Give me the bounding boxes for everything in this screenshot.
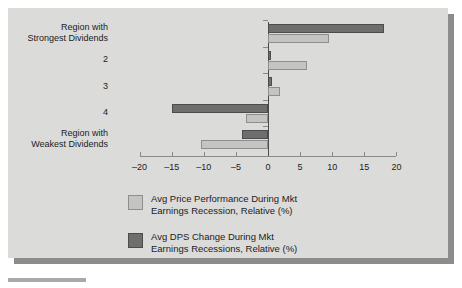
y-axis-category-label-line: 2 bbox=[12, 54, 108, 65]
x-axis-tick bbox=[300, 152, 301, 156]
x-axis-tick bbox=[172, 152, 173, 156]
bar-dark bbox=[268, 77, 272, 86]
caption-rule bbox=[8, 278, 86, 282]
y-axis-category-label-line: 3 bbox=[12, 81, 108, 92]
x-axis-tick bbox=[364, 152, 365, 156]
y-axis-category-label: Region withWeakest Dividends bbox=[12, 128, 108, 150]
x-axis-tick bbox=[140, 152, 141, 156]
bar-dark bbox=[268, 24, 384, 33]
y-axis-tick bbox=[263, 47, 268, 48]
bar-light bbox=[201, 140, 268, 149]
bar-dark bbox=[268, 51, 271, 60]
y-axis-tick bbox=[263, 73, 268, 74]
legend-swatch-dark bbox=[128, 233, 143, 248]
x-axis-tick bbox=[396, 152, 397, 156]
y-axis-tick bbox=[263, 100, 268, 101]
y-axis-category-label: 2 bbox=[12, 54, 108, 65]
x-axis-tick bbox=[332, 152, 333, 156]
legend-label-line: Avg Price Performance During Mkt bbox=[151, 193, 411, 205]
bar-light bbox=[268, 61, 307, 70]
y-axis-tick bbox=[263, 126, 268, 127]
plot-area: –20–15–10–505101520Region withStrongest … bbox=[8, 8, 448, 258]
bar-light bbox=[268, 87, 280, 96]
x-axis-tick bbox=[204, 152, 205, 156]
x-axis-tick-label: 20 bbox=[376, 162, 416, 172]
y-axis-category-label: 4 bbox=[12, 107, 108, 118]
legend-label: Avg Price Performance During MktEarnings… bbox=[151, 193, 411, 216]
bar-dark bbox=[172, 104, 268, 113]
legend-swatch-light bbox=[128, 195, 143, 210]
y-axis-tick bbox=[263, 20, 268, 21]
y-axis-category-label: Region withStrongest Dividends bbox=[12, 22, 108, 44]
y-axis-category-label-line: Strongest Dividends bbox=[12, 33, 108, 44]
x-axis-tick bbox=[236, 152, 237, 156]
bar-dark bbox=[242, 130, 268, 139]
legend-label-line: Earnings Recessions, Relative (%) bbox=[151, 243, 411, 255]
chart-panel: –20–15–10–505101520Region withStrongest … bbox=[8, 8, 448, 258]
figure: –20–15–10–505101520Region withStrongest … bbox=[0, 0, 462, 288]
y-axis-category-label-line: Region with bbox=[12, 128, 108, 139]
legend-label: Avg DPS Change During MktEarnings Recess… bbox=[151, 231, 411, 254]
y-axis-category-label-line: Region with bbox=[12, 22, 108, 33]
x-axis-line bbox=[140, 156, 397, 157]
legend-label-line: Earnings Recession, Relative (%) bbox=[151, 205, 411, 217]
y-axis-category-label-line: Weakest Dividends bbox=[12, 139, 108, 150]
y-axis-category-label: 3 bbox=[12, 81, 108, 92]
bar-light bbox=[268, 34, 329, 43]
bar-light bbox=[246, 114, 268, 123]
legend-label-line: Avg DPS Change During Mkt bbox=[151, 231, 411, 243]
y-axis-category-label-line: 4 bbox=[12, 107, 108, 118]
